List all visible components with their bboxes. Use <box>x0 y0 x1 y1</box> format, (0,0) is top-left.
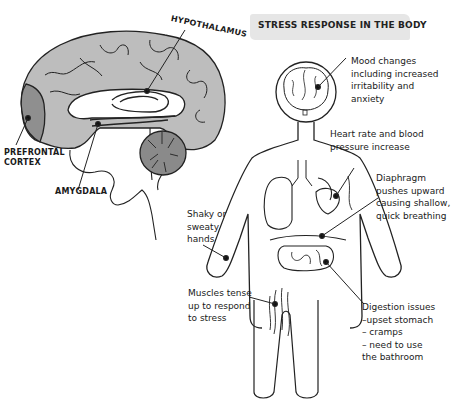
annotation-hands: Shaky or sweaty hands <box>187 208 226 246</box>
heart <box>316 188 339 214</box>
diaphragm <box>270 236 346 241</box>
label-amygdala: AMYGDALA <box>55 187 107 197</box>
annotation-heart: Heart rate and blood pressure increase <box>330 128 424 153</box>
intestines <box>278 246 333 271</box>
label-prefrontal-cortex: PREFRONTAL CORTEX <box>4 148 65 168</box>
lungs <box>264 177 292 229</box>
annotation-muscles: Muscles tense up to respond to stress <box>188 287 252 325</box>
stress-response-diagram: STRESS RESPONSE IN THE BODY HYPOTHALAMUS… <box>0 0 454 400</box>
annotation-diaphragm: Diaphragm pushes upward causing shallow,… <box>376 172 450 222</box>
annotation-mood: Mood changes including increased irritab… <box>351 55 439 105</box>
annotation-digestion: Digestion issues –upset stomach – cramps… <box>362 301 435 364</box>
diagram-title: STRESS RESPONSE IN THE BODY <box>258 20 427 30</box>
cerebellum <box>140 131 186 175</box>
head <box>276 62 336 122</box>
